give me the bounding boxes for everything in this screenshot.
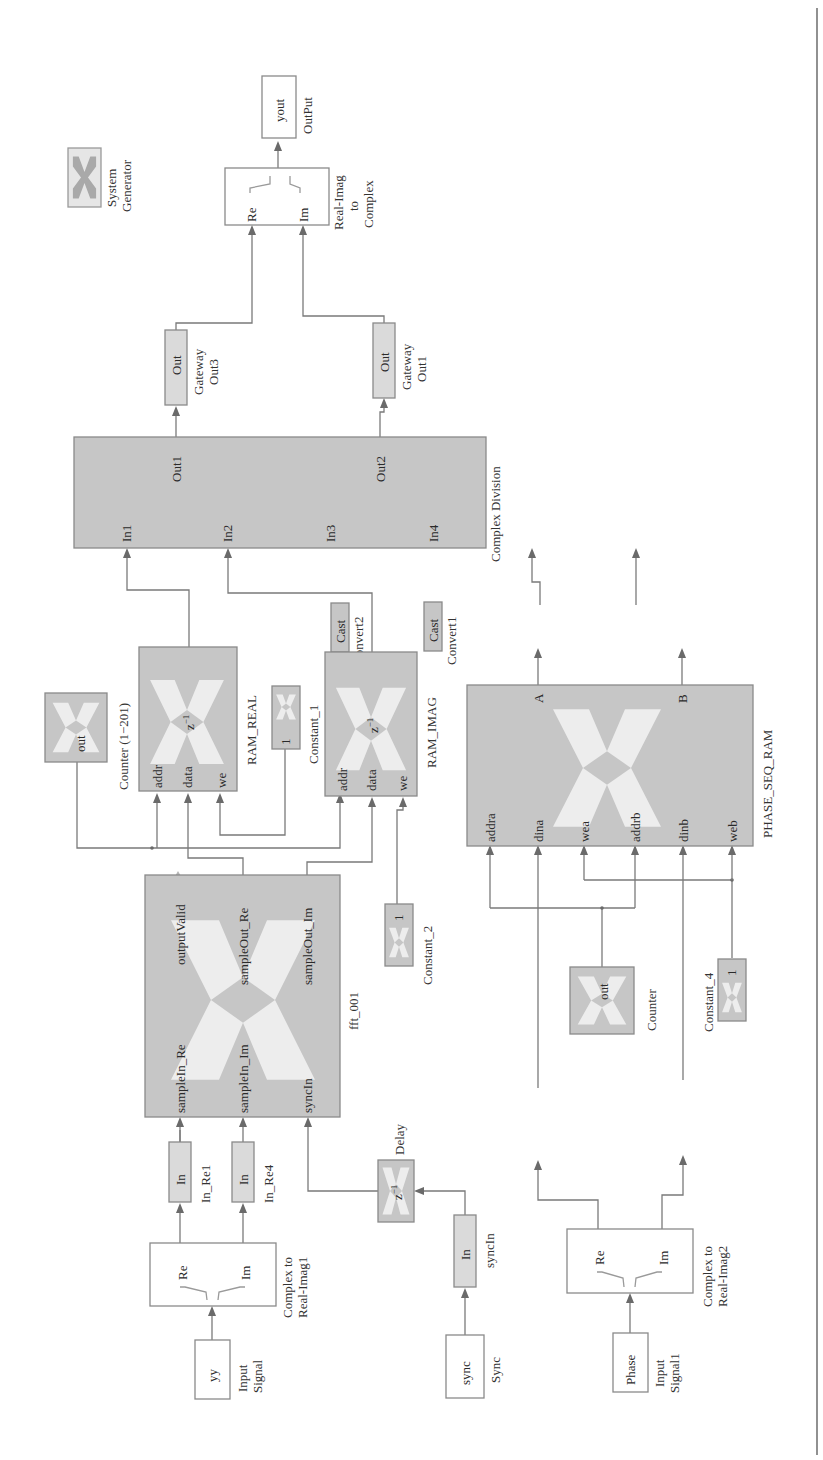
- ctri1-label-2: Real-Imag1: [295, 1257, 310, 1318]
- fft-port-sample-in-re: sampleIn_Re: [173, 1044, 188, 1113]
- fft-port-sample-out-im: sampleOut_Im: [300, 908, 315, 985]
- in-re4-label: In_Re4: [261, 1164, 276, 1203]
- syncin-gateway-text: In: [458, 1249, 473, 1260]
- complex-division-block[interactable]: Out1 Out2 In1 In2 In3 In4 Complex Divisi…: [74, 437, 503, 562]
- gateway-out1-label-2: Out1: [414, 356, 429, 382]
- input-signal-label-2: Signal: [250, 1359, 265, 1393]
- complex-division-port-out2: Out2: [373, 456, 388, 482]
- gateway-out1-label-1: Gateway: [399, 343, 414, 390]
- input-signal1-block[interactable]: Phase Input Signal1: [613, 1333, 682, 1393]
- sync-label: Sync: [488, 1357, 503, 1383]
- complex-division-port-in1: In1: [119, 525, 134, 542]
- real-imag-label-3: Complex: [361, 180, 376, 228]
- constant-2-label: Constant_2: [420, 926, 435, 985]
- counter-1-201-text: out: [73, 735, 88, 752]
- phase-seq-ram-port-web: web: [725, 820, 740, 842]
- ctri1-label-1: Complex to: [280, 1257, 295, 1318]
- input-signal-block[interactable]: yy Input Signal: [195, 1340, 265, 1399]
- output-block[interactable]: yout OutPut: [262, 76, 315, 138]
- input-signal1-text: Phase: [623, 1354, 638, 1385]
- fft-port-output-valid: outputValid: [173, 904, 188, 965]
- ctri2-label-2: Real-Imag2: [715, 1246, 730, 1307]
- complex-to-real-imag1-block[interactable]: Re Im Complex to Real-Imag1: [150, 1243, 310, 1318]
- real-imag-label-2: to: [346, 201, 361, 211]
- syncin-gateway-block[interactable]: In syncIn: [454, 1215, 497, 1287]
- gateway-out1-block[interactable]: Out Gateway Out1: [373, 323, 429, 398]
- real-imag-port-im: Im: [296, 208, 311, 222]
- complex-division-port-in3: In3: [323, 525, 338, 542]
- constant-4-block[interactable]: 1 Constant_4: [701, 959, 746, 1032]
- complex-division-label: Complex Division: [488, 466, 503, 562]
- complex-division-port-in4: In4: [426, 524, 441, 542]
- ram-imag-port-addr: addr: [335, 767, 350, 791]
- input-signal-text: yy: [205, 1369, 220, 1383]
- gateway-out3-block[interactable]: Out Gateway Out3: [165, 330, 221, 405]
- complex-to-real-imag2-block[interactable]: Re Im Complex to Real-Imag2: [567, 1229, 730, 1307]
- phase-seq-ram-port-a: A: [531, 693, 546, 703]
- ctri2-label-1: Complex to: [700, 1246, 715, 1307]
- syncin-gateway-label: syncIn: [482, 1233, 497, 1268]
- phase-seq-ram-port-dinb: dinb: [676, 819, 691, 842]
- convert1-text: Cast: [426, 619, 441, 643]
- diagram-canvas: System Generator yout OutPut Re Im Real-…: [0, 0, 823, 1460]
- convert2-text: Cast: [333, 620, 348, 644]
- constant-2-block[interactable]: 1 Constant_2: [385, 904, 435, 985]
- in-re4-block[interactable]: In In_Re4: [232, 1142, 276, 1203]
- ram-real-port-data: data: [180, 766, 195, 788]
- delay-block[interactable]: z−1 Delay: [378, 1123, 414, 1222]
- sync-block[interactable]: sync Sync: [446, 1335, 503, 1398]
- counter-1-201-label: Counter (1−201): [116, 703, 131, 790]
- gateway-out3-label-1: Gateway: [191, 348, 206, 395]
- fft-port-sample-in-im: sampleIn_Im: [236, 1044, 251, 1113]
- real-imag-port-re: Re: [244, 207, 259, 222]
- phase-seq-ram-port-addrb: addrb: [628, 812, 643, 842]
- system-generator-block[interactable]: System Generator: [68, 148, 134, 212]
- real-imag-label-1: Real-Imag: [331, 175, 346, 230]
- ram-real-port-addr: addr: [150, 764, 165, 788]
- ram-imag-block[interactable]: z−1 addr data we RAM_IMAG: [325, 652, 439, 796]
- phase-seq-ram-label: PHASE_SEQ_RAM: [760, 729, 775, 838]
- ram-imag-port-we: we: [395, 776, 410, 791]
- complex-division-port-out1: Out1: [169, 456, 184, 482]
- counter-text: out: [596, 983, 611, 1000]
- ctri2-port-re: Re: [592, 1250, 607, 1265]
- phase-seq-ram-port-addra: addra: [483, 813, 498, 842]
- constant-1-label: Constant_1: [306, 705, 321, 764]
- input-signal-label-1: Input: [235, 1364, 250, 1392]
- gateway-out3-text: Out: [169, 355, 184, 375]
- in-re1-block[interactable]: In In_Re1: [169, 1142, 213, 1203]
- counter-label: Counter: [644, 988, 659, 1031]
- constant-4-label: Constant_4: [701, 972, 716, 1032]
- ram-imag-port-data: data: [364, 769, 379, 791]
- constant-1-block[interactable]: 1 Constant_1: [272, 686, 321, 764]
- in-re4-text: In: [236, 1174, 251, 1185]
- fft-port-sync-in: syncIn: [300, 1078, 315, 1113]
- real-imag-to-complex-block[interactable]: Re Im Real-Imag to Complex: [225, 168, 376, 230]
- ctri1-port-re: Re: [175, 1265, 190, 1280]
- constant-4-text: 1: [724, 970, 739, 977]
- ram-real-port-we: we: [214, 773, 229, 788]
- phase-seq-ram-block[interactable]: A B addra dina wea addrb dinb web PHASE_…: [467, 685, 775, 846]
- sync-text: sync: [458, 1361, 473, 1385]
- phase-seq-ram-port-b: B: [675, 694, 690, 703]
- counter-1-201-block[interactable]: out Counter (1−201): [45, 693, 131, 790]
- system-generator-label-2: Generator: [119, 159, 134, 212]
- complex-division-port-in2: In2: [220, 525, 235, 542]
- in-re1-text: In: [173, 1174, 188, 1185]
- ctri1-port-im: Im: [238, 1266, 253, 1280]
- delay-label: Delay: [392, 1123, 407, 1155]
- fft-001-block[interactable]: outputValid sampleOut_Re sampleOut_Im sa…: [145, 875, 361, 1117]
- convert1-block[interactable]: Cast Convert1: [424, 602, 459, 665]
- input-signal1-label-1: Input: [652, 1359, 667, 1387]
- constant-1-text: 1: [278, 739, 293, 746]
- ram-real-label: RAM_REAL: [244, 695, 259, 765]
- ctri2-port-im: Im: [656, 1251, 671, 1265]
- constant-2-text: 1: [391, 915, 406, 922]
- output-block-text: yout: [272, 99, 287, 123]
- input-signal1-label-2: Signal1: [667, 1353, 682, 1393]
- gateway-out3-label-2: Out3: [206, 359, 221, 385]
- ram-imag-label: RAM_IMAG: [424, 697, 439, 768]
- counter-block[interactable]: out Counter: [570, 967, 659, 1034]
- ram-real-block[interactable]: z−1 addr data we RAM_REAL: [139, 647, 259, 791]
- convert1-label: Convert1: [444, 617, 459, 665]
